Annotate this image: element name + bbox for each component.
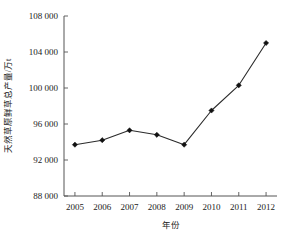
x-tick-label: 2012 xyxy=(257,202,275,212)
y-tick-label: 100 000 xyxy=(29,83,59,93)
x-tick-label: 2005 xyxy=(66,202,85,212)
x-tick-label: 2011 xyxy=(230,202,248,212)
y-tick-label: 108 000 xyxy=(29,11,59,21)
x-tick-label: 2008 xyxy=(148,202,167,212)
y-tick-label: 96 000 xyxy=(33,119,58,129)
x-tick-label: 2010 xyxy=(202,202,221,212)
x-tick-label: 2009 xyxy=(175,202,194,212)
x-tick-label: 2006 xyxy=(93,202,112,212)
y-tick-label: 104 000 xyxy=(29,47,59,57)
line-chart: 88 00092 00096 000100 000104 000108 000 … xyxy=(0,0,285,238)
y-tick-label: 92 000 xyxy=(33,155,58,165)
x-axis-title: 年份 xyxy=(162,220,180,230)
x-tick-label: 2007 xyxy=(121,202,140,212)
y-axis-title: 天然草原鲜草总产量/万t xyxy=(3,58,13,153)
y-tick-label: 88 000 xyxy=(33,191,58,201)
chart-container: 88 00092 00096 000100 000104 000108 000 … xyxy=(0,0,285,238)
